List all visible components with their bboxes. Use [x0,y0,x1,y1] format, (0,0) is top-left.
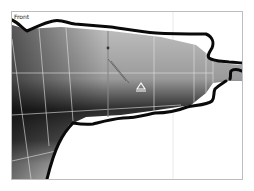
viewport-label[interactable]: Front [14,13,29,20]
front-viewport[interactable]: Front [11,11,243,180]
vertex-point[interactable] [107,47,110,50]
viewport-canvas[interactable] [12,12,242,179]
